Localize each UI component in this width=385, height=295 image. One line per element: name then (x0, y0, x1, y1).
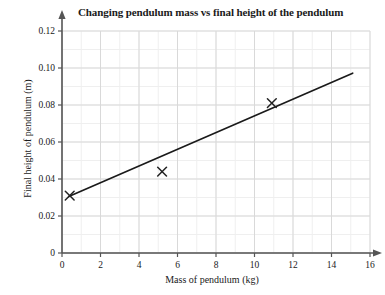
tick-marks (58, 31, 370, 257)
svg-text:0: 0 (60, 260, 65, 270)
svg-text:10: 10 (250, 260, 260, 270)
svg-text:0.10: 0.10 (38, 63, 55, 73)
svg-text:6: 6 (175, 260, 180, 270)
trend-line (69, 73, 353, 196)
svg-text:2: 2 (98, 260, 103, 270)
major-gridlines (62, 31, 370, 253)
svg-text:16: 16 (365, 260, 375, 270)
chart-container: Changing pendulum mass vs final height o… (0, 0, 385, 295)
plot-area: 024681012141600.020.040.060.080.100.12 (0, 0, 385, 295)
svg-text:8: 8 (214, 260, 219, 270)
svg-text:0.08: 0.08 (38, 100, 55, 110)
svg-text:4: 4 (137, 260, 142, 270)
svg-text:0.02: 0.02 (38, 211, 55, 221)
axes (58, 10, 382, 257)
svg-text:14: 14 (327, 260, 337, 270)
svg-text:12: 12 (288, 260, 298, 270)
data-point (158, 167, 167, 176)
svg-text:0.12: 0.12 (38, 26, 55, 36)
svg-text:0.06: 0.06 (38, 137, 55, 147)
svg-text:0: 0 (50, 248, 55, 258)
data-point (267, 99, 276, 108)
svg-text:0.04: 0.04 (38, 174, 55, 184)
tick-labels: 024681012141600.020.040.060.080.100.12 (38, 26, 375, 270)
